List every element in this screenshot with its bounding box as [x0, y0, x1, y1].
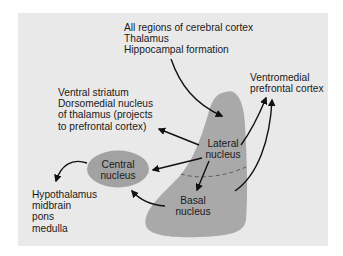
label-line: Ventral striatum — [58, 87, 153, 98]
arrow-lateral-to-striatum — [159, 129, 199, 145]
label-line: of thalamus (projects — [58, 109, 153, 120]
label-ventral-striatum: Ventral striatum Dorsomedial nucleus of … — [58, 87, 153, 132]
label-line: Hippocampal formation — [124, 44, 253, 55]
label-line: Basal — [171, 195, 215, 206]
label-line: nucleus — [171, 206, 215, 217]
label-line: pons — [32, 211, 97, 222]
label-line: medulla — [32, 223, 97, 234]
label-line: Ventromedial — [250, 72, 324, 83]
label-line: All regions of cerebral cortex — [124, 22, 253, 33]
label-line: Hypothalamus — [32, 189, 97, 200]
label-line: Thalamus — [124, 33, 253, 44]
label-line: to prefrontal cortex) — [58, 121, 153, 132]
label-line: prefrontal cortex — [250, 83, 324, 94]
lateral-nucleus-label: Lateral nucleus — [200, 138, 246, 160]
central-nucleus-label: Central nucleus — [95, 159, 141, 181]
label-line: Dorsomedial nucleus — [58, 98, 153, 109]
label-line: Lateral — [200, 138, 246, 149]
label-line: nucleus — [95, 170, 141, 181]
basal-nucleus-label: Basal nucleus — [171, 195, 215, 217]
label-vmpfc: Ventromedial prefrontal cortex — [250, 72, 324, 94]
label-line: Central — [95, 159, 141, 170]
label-brainstem-targets: Hypothalamus midbrain pons medulla — [32, 189, 97, 234]
label-cortical-inputs: All regions of cerebral cortex Thalamus … — [124, 22, 253, 56]
label-line: nucleus — [200, 149, 246, 160]
arrow-central-to-brainstem — [56, 161, 87, 181]
label-line: midbrain — [32, 200, 97, 211]
